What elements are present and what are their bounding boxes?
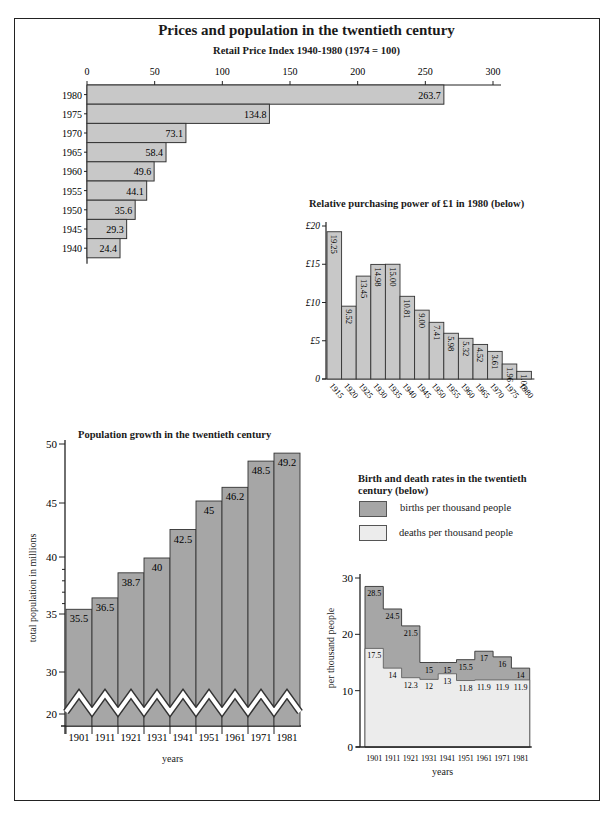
deaths-label: 11.9 (477, 683, 491, 692)
rpi-y-tick: 1970 (62, 128, 82, 139)
pop-x-tick: 1901 (69, 732, 90, 743)
rpi-bar-label: 58.4 (146, 147, 164, 158)
pp-x-tick: 1965 (473, 381, 492, 400)
pp-x-tick: 1940 (400, 381, 419, 400)
pop-x-tick: 1941 (173, 732, 194, 743)
rpi-bar-label: 263.7 (418, 90, 441, 101)
pop-x-tick: 1981 (277, 732, 298, 743)
deaths-label: 11.9 (514, 683, 528, 692)
population-xlabel: years (162, 753, 183, 764)
rpi-bar-label: 35.6 (115, 205, 133, 216)
pop-x-tick: 1931 (147, 732, 168, 743)
pop-y-tick: 50 (46, 438, 58, 450)
bd-x-tick: 1981 (513, 754, 529, 763)
births-label: 15 (425, 666, 433, 675)
births-label: 28.5 (367, 589, 381, 598)
bd-y-tick: 20 (342, 628, 354, 640)
bd-x-tick: 1971 (494, 754, 510, 763)
rpi-bar (87, 85, 444, 104)
rpi-bar-label: 29.3 (106, 224, 124, 235)
bd-y-tick: 30 (342, 572, 354, 584)
pp-bar-label: 10.81 (402, 299, 412, 318)
pp-x-tick: 1930 (371, 381, 390, 400)
pop-bar (274, 453, 300, 726)
pp-bar-label: 15.00 (388, 267, 398, 286)
rpi-x-tick: 100 (215, 66, 230, 77)
legend-deaths-label: deaths per thousand people (399, 527, 513, 538)
pop-y-tick: 35 (46, 608, 58, 620)
pop-bar-label: 36.5 (96, 602, 114, 613)
rpi-x-tick: 200 (350, 66, 365, 77)
rpi-x-tick: 50 (150, 66, 160, 77)
deaths-label: 13 (443, 677, 451, 686)
rpi-bar-label: 134.8 (244, 109, 267, 120)
rpi-bar (87, 104, 269, 123)
pop-x-tick: 1921 (121, 732, 142, 743)
pop-bar-label: 35.5 (70, 613, 88, 624)
pp-x-tick: 1970 (488, 381, 507, 400)
pp-bar-label: 9.00 (417, 313, 427, 328)
pp-bar-label: 19.25 (329, 235, 339, 254)
pp-y-tick: £20 (306, 221, 321, 231)
bd-x-tick: 1921 (403, 754, 419, 763)
births-label: 24.5 (385, 612, 399, 621)
rpi-x-tick: 150 (283, 66, 298, 77)
pop-y-tick: 30 (46, 666, 58, 678)
purchasing-title: Relative purchasing power of £1 in 1980 … (309, 198, 524, 209)
bd-x-tick: 1911 (385, 754, 401, 763)
pp-x-tick: 1980 (517, 381, 536, 400)
births-label: 15 (443, 666, 451, 675)
rpi-y-tick: 1945 (62, 224, 82, 235)
pp-bar-label: 7.41 (432, 325, 442, 340)
deaths-label: 12 (425, 682, 433, 691)
pop-x-tick: 1911 (95, 732, 116, 743)
pp-bar-label: 3.61 (490, 354, 500, 369)
pp-y-tick: £5 (311, 336, 321, 346)
pp-x-tick: 1920 (342, 381, 361, 400)
births-label: 21.5 (404, 629, 418, 638)
rpi-y-tick: 1950 (62, 205, 82, 216)
bd-y-tick: 10 (342, 685, 354, 697)
rpi-y-tick: 1975 (62, 109, 82, 120)
pop-x-tick: 1961 (225, 732, 246, 743)
pp-bar-label: 1.96 (505, 367, 515, 382)
pop-bar-label: 45 (204, 505, 215, 516)
pop-y-tick: 45 (46, 497, 58, 509)
legend-births-label: births per thousand people (400, 502, 511, 513)
births-label: 15.5 (459, 663, 473, 672)
pop-bar-label: 38.7 (122, 577, 140, 588)
deaths-label: 17.5 (367, 651, 381, 660)
legend-deaths-swatch (359, 525, 387, 541)
pp-bar-label: 14.98 (373, 267, 383, 286)
pp-y-tick: £15 (306, 259, 321, 269)
deaths-label: 14 (388, 671, 396, 680)
pp-x-tick: 1960 (459, 381, 478, 400)
pp-x-tick: 1955 (444, 381, 463, 400)
rpi-y-tick: 1940 (62, 243, 82, 254)
births-label: 17 (480, 654, 488, 663)
pop-bar-label: 42.5 (174, 534, 192, 545)
pop-x-tick: 1971 (251, 732, 272, 743)
pop-bar-label: 48.5 (252, 465, 270, 476)
bd-x-tick: 1961 (476, 754, 492, 763)
rpi-bar-label: 49.6 (134, 166, 152, 177)
legend-births-swatch (359, 501, 387, 517)
pp-y-tick: £10 (306, 298, 321, 308)
rpi-bar-label: 44.1 (126, 186, 144, 197)
bd-x-tick: 1951 (458, 754, 474, 763)
pp-x-tick: 1975 (503, 381, 522, 400)
rpi-y-tick: 1965 (62, 147, 82, 158)
rpi-x-tick: 0 (85, 66, 90, 77)
pop-bar (248, 461, 274, 726)
deaths-label: 12.3 (404, 681, 418, 690)
bd-x-tick: 1941 (439, 754, 455, 763)
pop-x-tick: 1951 (199, 732, 220, 743)
pp-x-tick: 1945 (415, 381, 434, 400)
pp-x-tick: 1925 (357, 381, 376, 400)
rpi-y-tick: 1955 (62, 186, 82, 197)
rpi-bar-label: 24.4 (100, 243, 118, 254)
pp-x-tick: 1915 (327, 381, 346, 400)
deaths-label: 11.8 (459, 684, 473, 693)
bd-y-tick: 0 (348, 741, 354, 753)
rpi-bar-label: 73.1 (165, 128, 183, 139)
